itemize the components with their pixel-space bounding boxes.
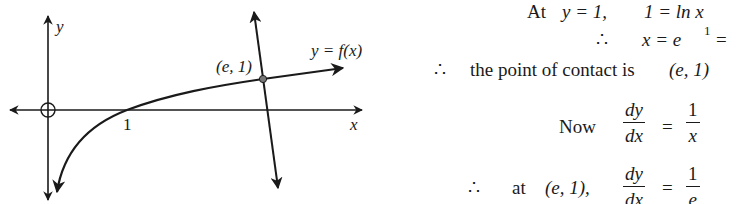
ln-curve [57,68,343,192]
denominator: e [686,187,700,204]
therefore-symbol: ∴ [596,30,608,49]
contact-point-value: (e, 1) [669,60,709,79]
denominator: dx [623,187,645,204]
normal-line [254,12,278,188]
condition: y = 1, [562,2,607,21]
point-label: (e, 1) [216,58,252,75]
at-word: at [512,178,526,197]
point-value: (e, 1), [545,178,590,197]
now-word: Now [559,117,596,136]
denominator: dx [623,123,645,145]
at-word: At [527,2,546,21]
equals-sign: = [662,178,673,197]
equals-tail: = [716,30,727,49]
equation: 1 = ln x [644,2,704,21]
x-axis-label: x [350,116,358,133]
derivative-fraction: dy dx [623,100,645,145]
curve-label: y = f(x) [311,42,362,59]
numerator: dy [623,100,645,122]
x-intercept-label: 1 [123,116,132,133]
therefore-symbol: ∴ [434,60,446,79]
derivative-fraction: dy dx [623,164,645,204]
numerator: 1 [686,164,700,186]
superscript: 1 [704,24,711,37]
reciprocal-fraction: 1 x [686,100,700,145]
denominator: x [686,123,700,145]
equation: x = e [642,30,681,49]
value-fraction: 1 e [686,164,700,204]
y-axis-label: y [56,18,64,35]
numerator: 1 [686,100,700,122]
contact-text: the point of contact is [470,60,635,79]
therefore-symbol: ∴ [468,178,480,197]
numerator: dy [623,164,645,186]
equals-sign: = [662,117,673,136]
contact-point [259,75,266,82]
